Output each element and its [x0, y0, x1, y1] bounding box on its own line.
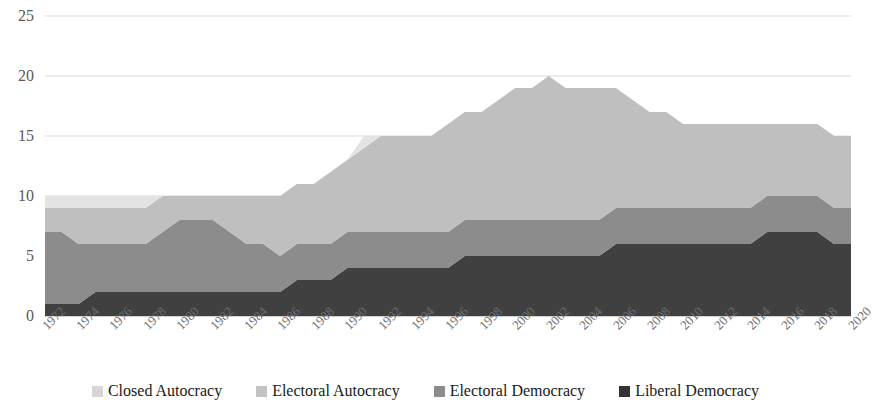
legend-swatch-icon — [92, 386, 103, 397]
legend-item-label: Liberal Democracy — [635, 383, 759, 399]
y-axis-tick-label: 20 — [0, 68, 34, 84]
legend-item-label: Electoral Democracy — [450, 383, 585, 399]
plot-svg — [0, 0, 851, 330]
y-axis-tick-label: 25 — [0, 8, 34, 24]
y-axis-tick-label: 10 — [0, 188, 34, 204]
y-axis-tick-label: 5 — [0, 248, 34, 264]
legend-item-label: Closed Autocracy — [108, 383, 222, 399]
legend-swatch-icon — [619, 386, 630, 397]
legend-item[interactable]: Closed Autocracy — [92, 383, 222, 399]
legend-swatch-icon — [256, 386, 267, 397]
legend-item[interactable]: Electoral Democracy — [434, 383, 585, 399]
legend-item[interactable]: Electoral Autocracy — [256, 383, 400, 399]
plot-area — [0, 0, 851, 330]
x-axis-tick-labels: 1972197419761978198019821984198619881990… — [0, 316, 851, 378]
chart-legend: Closed AutocracyElectoral AutocracyElect… — [0, 379, 851, 403]
legend-swatch-icon — [434, 386, 445, 397]
legend-item[interactable]: Liberal Democracy — [619, 383, 759, 399]
legend-item-label: Electoral Autocracy — [272, 383, 400, 399]
y-axis-tick-label: 15 — [0, 128, 34, 144]
